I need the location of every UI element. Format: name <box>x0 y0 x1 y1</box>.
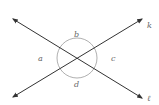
angle-d-label: d <box>74 80 79 89</box>
angle-c-label: c <box>111 54 116 63</box>
angle-a-label: a <box>38 54 43 63</box>
line-k-label: k <box>147 21 152 30</box>
line-l-label: ℓ <box>147 94 151 103</box>
angle-b-label: b <box>74 30 79 39</box>
angle-diagram: k ℓ b a c d <box>0 0 159 105</box>
